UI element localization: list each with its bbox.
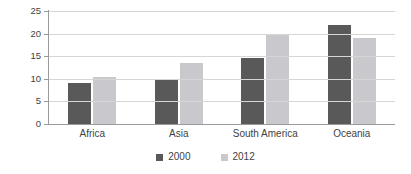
x-axis-line bbox=[48, 124, 395, 125]
legend-swatch-icon bbox=[221, 154, 228, 161]
y-axis-tick-label: 20 bbox=[0, 29, 41, 39]
bar-asia-2012[interactable] bbox=[180, 63, 203, 124]
y-axis-tick-mark bbox=[44, 34, 48, 35]
gridline bbox=[49, 56, 395, 57]
y-axis-tick-label: 10 bbox=[0, 74, 41, 84]
bar-group bbox=[155, 11, 203, 124]
y-axis-tick-mark bbox=[44, 56, 48, 57]
chart-legend: 20002012 bbox=[0, 152, 411, 162]
legend-item-2012[interactable]: 2012 bbox=[221, 152, 255, 162]
x-axis-label-asia: Asia bbox=[169, 128, 188, 139]
gridline bbox=[49, 11, 395, 12]
y-axis-tick-mark bbox=[44, 101, 48, 102]
gridline bbox=[49, 101, 395, 102]
y-axis-tick-mark bbox=[44, 79, 48, 80]
bar-south-america-2000[interactable] bbox=[241, 58, 264, 124]
bar-africa-2000[interactable] bbox=[68, 83, 91, 124]
y-axis-tick-label: 15 bbox=[0, 51, 41, 61]
y-axis-tick-label: 5 bbox=[0, 97, 41, 107]
bar-oceania-2000[interactable] bbox=[328, 25, 351, 124]
legend-swatch-icon bbox=[156, 154, 163, 161]
y-axis-tick-mark bbox=[44, 124, 48, 125]
plot-area bbox=[49, 11, 395, 124]
bar-group bbox=[68, 11, 116, 124]
y-axis-tick-label: 25 bbox=[0, 6, 41, 16]
y-axis-tick-label: 0 bbox=[0, 119, 41, 129]
gridline bbox=[49, 79, 395, 80]
legend-label: 2012 bbox=[233, 152, 255, 162]
bar-group bbox=[328, 11, 376, 124]
x-axis-label-africa: Africa bbox=[79, 128, 105, 139]
bar-oceania-2012[interactable] bbox=[353, 38, 376, 124]
bar-group bbox=[241, 11, 289, 124]
x-axis-label-oceania: Oceania bbox=[333, 128, 370, 139]
x-axis-label-south-america: South America bbox=[233, 128, 298, 139]
legend-item-2000[interactable]: 2000 bbox=[156, 152, 190, 162]
legend-label: 2000 bbox=[168, 152, 190, 162]
bar-chart: 0510152025 AfricaAsiaSouth AmericaOceani… bbox=[0, 0, 411, 174]
y-axis-tick-mark bbox=[44, 11, 48, 12]
gridline bbox=[49, 34, 395, 35]
